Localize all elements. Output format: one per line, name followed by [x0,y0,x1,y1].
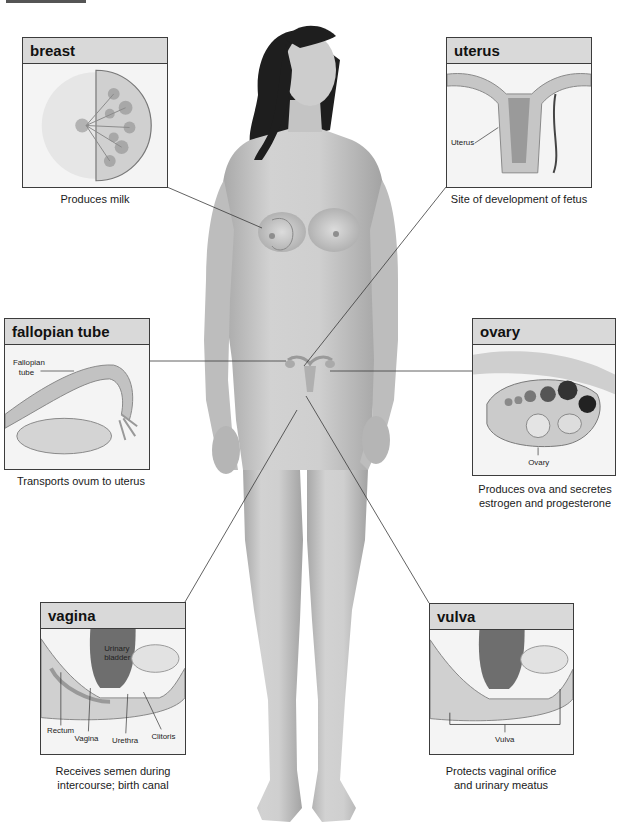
caption-breast: Produces milk [22,192,168,206]
breast-illustration [23,64,167,187]
panel-breast: breast [22,37,168,188]
label-urethra: Urethra [112,736,139,745]
caption-uterus: Site of development of fetus [446,192,592,206]
label-urinary: Urinary [104,644,129,653]
panel-title: fallopian tube [5,319,149,345]
label-bladder: bladder [104,653,131,662]
uterus-illustration: Uterus [447,64,591,187]
hair [250,30,340,145]
label-clitoris: Clitoris [151,732,175,741]
caption-vulva-line1: Protects vaginal orifice [418,764,584,778]
vulva-illustration: Vulva [430,630,573,754]
leader-breast [167,187,262,228]
fallopian-tube-illustration: Fallopian tube [5,345,149,469]
leader-vagina [185,410,297,602]
panel-uterus: uterus Uterus [446,37,592,188]
caption-ovary-line1: Produces ova and secretes [462,482,628,496]
panel-title: vulva [430,604,573,630]
panel-title: uterus [447,38,591,64]
vagina-illustration: Urinary bladder Rectum Vagina Urethra Cl… [41,629,185,754]
panel-title: breast [23,38,167,64]
panel-title: vagina [41,603,185,629]
caption-fallopian-tube: Transports ovum to uterus [0,474,162,488]
label-vagina: Vagina [75,734,100,743]
leader-vulva [306,396,429,603]
label-uterus: Uterus [451,138,474,147]
panel-vagina: vagina Urinary bladder Rectum Vagina Ure… [40,602,186,755]
panel-ovary: ovary Ovary [472,318,616,476]
caption-vagina-line1: Receives semen during [30,764,196,778]
panel-fallopian-tube: fallopian tube Fallopian tube [4,318,150,470]
label-rectum: Rectum [47,726,75,735]
caption-ovary: Produces ova and secretes estrogen and p… [462,482,628,510]
caption-ovary-line2: estrogen and progesterone [462,496,628,510]
caption-vagina-line2: intercourse; birth canal [30,778,196,792]
caption-vulva: Protects vaginal orifice and urinary mea… [418,764,584,792]
label-ovary: Ovary [528,458,549,467]
corner-bar [6,0,86,3]
panel-title: ovary [473,319,615,345]
label-tube: tube [19,368,35,377]
leader-uterus [304,187,446,366]
ovary-illustration: Ovary [473,345,615,475]
panel-vulva: vulva Vulva [429,603,574,755]
caption-vagina: Receives semen during intercourse; birth… [30,764,196,792]
label-fallopian: Fallopian [13,358,45,367]
label-vulva: Vulva [495,735,515,744]
caption-vulva-line2: and urinary meatus [418,778,584,792]
